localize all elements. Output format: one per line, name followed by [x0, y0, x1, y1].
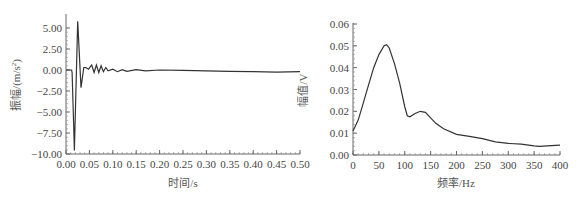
x-tick-label: 0.00: [56, 158, 76, 170]
amplitude-spectrum-series: [353, 45, 560, 147]
y-tick-label: −2.50: [37, 85, 63, 97]
x-tick-label: 0: [350, 159, 356, 171]
y-tick-label: 0.04: [330, 62, 350, 74]
x-tick-labels: 050100150200250300350400: [350, 151, 569, 171]
y-tick-label: 0.06: [330, 18, 350, 30]
x-tick-label: 100: [397, 159, 414, 171]
x-tick-label: 0.20: [150, 158, 170, 170]
x-tick-label: 0.45: [267, 158, 287, 170]
figure: 5.002.500.00−2.50−5.00−7.50−10.00 0.000.…: [0, 0, 580, 197]
x-tick-label: 0.05: [80, 158, 100, 170]
y-tick-label: 0.03: [330, 84, 350, 96]
y-tick-label: 0.05: [330, 40, 350, 52]
x-tick-label: 400: [552, 159, 569, 171]
x-tick-label: 0.10: [103, 158, 123, 170]
x-tick-label: 0.40: [244, 158, 264, 170]
x-axis-label: 频率/Hz: [437, 176, 475, 189]
x-tick-label: 150: [422, 159, 439, 171]
x-tick-label: 250: [474, 159, 491, 171]
x-tick-label: 0.15: [127, 158, 147, 170]
y-tick-label: 0.00: [43, 64, 63, 76]
x-tick-label: 200: [448, 159, 465, 171]
x-axis-label: 时间/s: [168, 177, 197, 189]
y-tick-label: 2.50: [43, 43, 63, 55]
acceleration-series: [66, 21, 300, 150]
y-tick-label: 0.02: [330, 105, 349, 117]
x-tick-label: 350: [526, 159, 543, 171]
x-tick-label: 300: [500, 159, 517, 171]
y-tick-label: 0.00: [330, 149, 350, 161]
x-tick-label: 50: [373, 159, 385, 171]
y-tick-label: 5.00: [43, 22, 63, 34]
y-axis-label: 振幅/(m/s2): [9, 59, 23, 111]
frequency-domain-chart: 0.060.050.040.030.020.010.00 05010015020…: [297, 18, 569, 189]
y-tick-label: −5.00: [37, 106, 63, 118]
x-tick-label: 0.25: [173, 158, 193, 170]
y-tick-label: 0.01: [330, 127, 349, 139]
time-domain-chart: 5.002.500.00−2.50−5.00−7.50−10.00 0.000.…: [9, 14, 310, 189]
x-tick-label: 0.50: [290, 158, 310, 170]
y-axis-label: 幅值/V: [297, 73, 309, 106]
x-tick-label: 0.35: [220, 158, 240, 170]
y-tick-labels: 5.002.500.00−2.50−5.00−7.50−10.00: [31, 22, 70, 160]
y-tick-label: −7.50: [37, 127, 63, 139]
x-tick-label: 0.30: [197, 158, 217, 170]
